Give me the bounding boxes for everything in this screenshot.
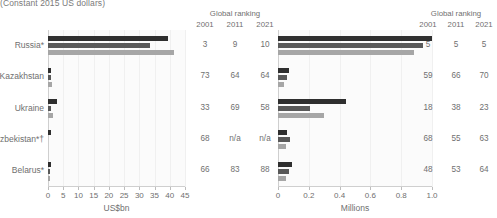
- category-label: Kazakhstan: [0, 71, 44, 81]
- ranking-year-header: 2011: [222, 20, 248, 29]
- bar-2001: [48, 99, 57, 104]
- tick-label: 5: [61, 191, 65, 200]
- bar-2011: [278, 106, 310, 111]
- bar-2001: [48, 162, 51, 167]
- bar-2011: [278, 137, 290, 142]
- axis-title-left: US$bn: [48, 203, 185, 213]
- ranking-value: n/a: [222, 134, 248, 143]
- tick-label: 0: [46, 191, 50, 200]
- ranking-years-right: 200120112021: [416, 20, 497, 29]
- ranking-value: 5: [472, 40, 496, 49]
- bar-2021: [48, 50, 174, 55]
- ranking-value: 66: [444, 71, 468, 80]
- ranking-value: 68: [192, 134, 218, 143]
- ranking-year-header: 2001: [192, 20, 218, 29]
- bar-2001: [278, 68, 289, 73]
- bar-2021: [48, 82, 52, 87]
- ranking-value: 5: [416, 40, 440, 49]
- category-label: Belarus*: [12, 165, 44, 175]
- ranking-value: 23: [472, 103, 496, 112]
- x-axis-line: [278, 186, 432, 187]
- ranking-value: 48: [416, 165, 440, 174]
- ranking-value: 53: [444, 165, 468, 174]
- tick-label: 0.8: [396, 191, 407, 200]
- ranking-year-header: 2021: [472, 20, 496, 29]
- tick-label: 1.0: [426, 191, 437, 200]
- axis-tickmark: [78, 187, 79, 190]
- bar-2021: [278, 176, 286, 181]
- axis-tickmark: [155, 187, 156, 190]
- bar-2011: [278, 75, 287, 80]
- bar-2011: [278, 169, 289, 174]
- ranking-value: 9: [222, 40, 248, 49]
- ranking-value: 18: [416, 103, 440, 112]
- ranking-value: 66: [192, 165, 218, 174]
- axis-tickmark: [109, 187, 110, 190]
- bar-2021: [48, 113, 53, 118]
- axis-tickmark: [432, 187, 433, 190]
- ranking-value: 33: [192, 103, 218, 112]
- axis-tickmark: [370, 187, 371, 190]
- axis-tickmark: [340, 187, 341, 190]
- ranking-value: 69: [222, 103, 248, 112]
- ranking-value: 64: [472, 165, 496, 174]
- axis-tickmark: [139, 187, 140, 190]
- ranking-title-right: Global ranking: [416, 9, 496, 18]
- bar-2021: [278, 50, 414, 55]
- ranking-value: 64: [222, 71, 248, 80]
- gridline: [185, 30, 186, 187]
- tick-label: 35: [150, 191, 159, 200]
- panel-spending: Global ranking 200120112021 Russia*Kazak…: [0, 0, 266, 218]
- ranking-value: 5: [444, 40, 468, 49]
- bar-2011: [48, 169, 50, 174]
- bar-2001: [48, 68, 51, 73]
- bar-2001: [278, 162, 292, 167]
- tick-label: 0.6: [365, 191, 376, 200]
- ranking-value: 55: [444, 134, 468, 143]
- ranking-value: 83: [222, 165, 248, 174]
- bar-2001: [278, 36, 432, 41]
- tick-label: 40: [165, 191, 174, 200]
- tick-label: 45: [181, 191, 190, 200]
- tick-label: 15: [89, 191, 98, 200]
- tick-label: 30: [135, 191, 144, 200]
- category-label: Uzbekistan*†: [0, 134, 44, 144]
- axis-tickmark: [309, 187, 310, 190]
- bar-2011: [278, 43, 423, 48]
- x-axis-line: [48, 186, 185, 187]
- axis-title-right: Millions: [278, 203, 432, 213]
- bar-2001: [48, 130, 51, 135]
- ranking-value: 3: [192, 40, 218, 49]
- ranking-year-header: 2011: [444, 20, 468, 29]
- category-label: Russia*: [15, 40, 44, 50]
- axis-tickmark: [124, 187, 125, 190]
- bar-2011: [48, 75, 51, 80]
- ranking-value: 68: [416, 134, 440, 143]
- plot-area-left: [48, 30, 185, 187]
- bar-2021: [278, 113, 324, 118]
- ranking-value: 70: [472, 71, 496, 80]
- ranking-value: 73: [192, 71, 218, 80]
- category-label: Ukraine: [15, 103, 44, 113]
- tick-label: 0: [276, 191, 280, 200]
- tick-label: 0.4: [334, 191, 345, 200]
- ranking-value: 59: [416, 71, 440, 80]
- bar-2001: [278, 130, 287, 135]
- bar-2001: [278, 99, 346, 104]
- ranking-value: 38: [444, 103, 468, 112]
- tick-label: 10: [74, 191, 83, 200]
- axis-tickmark: [170, 187, 171, 190]
- bar-2001: [48, 36, 168, 41]
- axis-tickmark: [94, 187, 95, 190]
- tick-label: 20: [104, 191, 113, 200]
- panel-personnel: Global ranking 200120112021 00.20.40.60.…: [266, 0, 490, 218]
- bar-2011: [48, 43, 150, 48]
- ranking-value: 63: [472, 134, 496, 143]
- bar-2021: [278, 82, 284, 87]
- tick-label: 25: [120, 191, 129, 200]
- axis-tickmark: [63, 187, 64, 190]
- axis-tickmark: [185, 187, 186, 190]
- bar-2011: [48, 106, 51, 111]
- ranking-year-header: 2001: [416, 20, 440, 29]
